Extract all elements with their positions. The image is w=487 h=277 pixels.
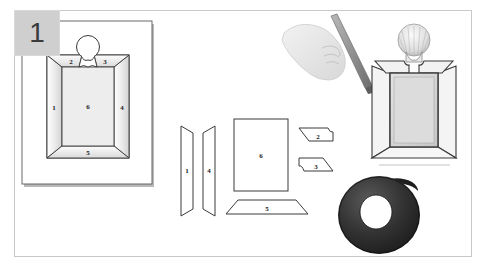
assembled-center-inset [394, 77, 434, 143]
step-number-badge: 1 [14, 10, 60, 56]
cut-number-4: 4 [207, 167, 211, 175]
plan-number-6: 6 [86, 103, 90, 111]
plan-number-2: 2 [69, 58, 73, 66]
cut-pieces-group: 1 4 6 2 3 5 [181, 119, 333, 216]
hand-shape [282, 24, 345, 80]
plan-number-4: 4 [120, 104, 124, 112]
cut-number-5: 5 [265, 205, 269, 213]
plan-number-5: 5 [86, 149, 90, 157]
cut-number-3: 3 [314, 163, 318, 171]
assembled-left-flap [372, 66, 390, 158]
illustration-page: 1 2 3 4 5 6 1 4 6 2 3 5 [0, 0, 487, 277]
step-number-text: 1 [29, 17, 45, 49]
cut-number-1: 1 [185, 167, 189, 175]
illustration-canvas: 1 2 3 4 5 6 1 4 6 2 3 5 [0, 0, 487, 277]
plan-number-3: 3 [103, 58, 107, 66]
cut-number-6: 6 [259, 152, 263, 160]
plan-number-1: 1 [52, 104, 56, 112]
assembled-right-flap [438, 66, 456, 158]
cut-number-2: 2 [316, 133, 320, 141]
